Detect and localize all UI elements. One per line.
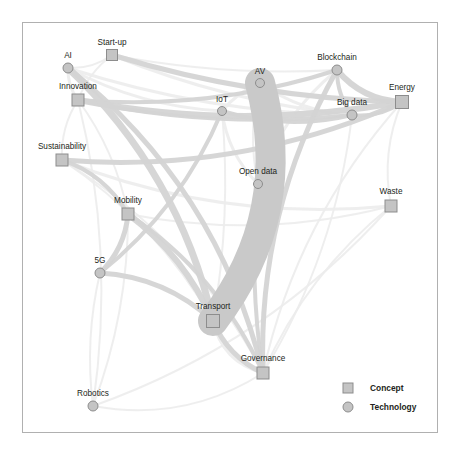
legend-swatch-circle (343, 402, 353, 412)
legend-label: Concept (370, 383, 404, 393)
node-marker-circle[interactable] (332, 65, 342, 75)
node-marker-square[interactable] (257, 367, 269, 379)
node-marker-circle[interactable] (256, 79, 265, 88)
node-label-mobility: Mobility (114, 196, 143, 205)
node-marker-circle[interactable] (254, 180, 263, 189)
node-marker-circle[interactable] (347, 110, 357, 120)
node-label-ai: AI (64, 51, 72, 60)
legend-swatch-square (343, 383, 353, 393)
node-label-av: AV (255, 67, 266, 76)
node-marker-square[interactable] (122, 208, 134, 220)
node-marker-square[interactable] (107, 50, 118, 61)
node-label-waste: Waste (380, 187, 403, 196)
node-marker-circle[interactable] (95, 268, 105, 278)
legend-label: Technology (370, 402, 417, 412)
node-marker-circle[interactable] (63, 63, 73, 73)
node-label-governance: Governance (241, 354, 286, 363)
node-label-blockchain: Blockchain (317, 53, 357, 62)
node-label-innovation: Innovation (59, 82, 97, 91)
node-marker-circle[interactable] (88, 401, 98, 411)
node-label-robotics: Robotics (77, 389, 109, 398)
node-label-big-data: Big data (337, 98, 367, 107)
node-marker-square[interactable] (207, 315, 220, 328)
node-label-iot: IoT (216, 95, 228, 104)
node-label-energy: Energy (389, 83, 416, 92)
node-marker-square[interactable] (396, 96, 409, 109)
network-graph-figure: Start-upAIInnovationBlockchainAVEnergyBi… (0, 0, 458, 455)
node-label-sustainability: Sustainability (38, 142, 87, 151)
node-marker-circle[interactable] (218, 107, 227, 116)
node-label-5g: 5G (95, 256, 106, 265)
network-graph-canvas: Start-upAIInnovationBlockchainAVEnergyBi… (0, 0, 458, 455)
node-label-start-up: Start-up (97, 38, 127, 47)
node-marker-square[interactable] (385, 200, 397, 212)
node-label-open-data: Open data (239, 167, 278, 176)
node-marker-square[interactable] (72, 94, 84, 106)
node-marker-square[interactable] (56, 154, 68, 166)
node-label-transport: Transport (196, 302, 231, 311)
legend-item-concept[interactable]: Concept (343, 383, 404, 393)
